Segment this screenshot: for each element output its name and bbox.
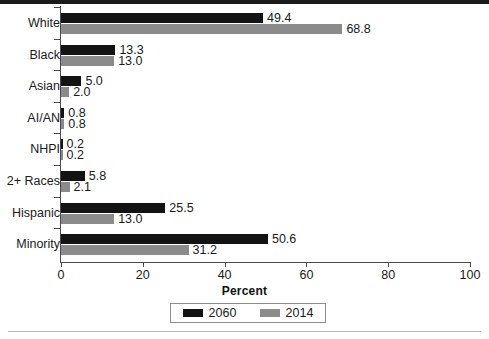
bar-value-label: 13.0 bbox=[118, 214, 142, 224]
bar bbox=[61, 119, 64, 129]
bar-value-label: 25.5 bbox=[169, 203, 193, 213]
x-axis-tick-label: 0 bbox=[41, 268, 81, 282]
chart-legend: 20602014 bbox=[170, 303, 326, 323]
bar-value-label: 5.8 bbox=[89, 171, 106, 181]
x-axis-tick bbox=[143, 262, 144, 267]
legend-label: 2014 bbox=[286, 306, 314, 320]
page-bottom-rule bbox=[8, 331, 481, 332]
x-axis-tick-label: 40 bbox=[205, 268, 245, 282]
bar bbox=[61, 139, 63, 149]
y-axis-tick bbox=[54, 197, 60, 198]
bar-value-label: 2.1 bbox=[74, 182, 91, 192]
x-axis-title: Percent bbox=[0, 284, 489, 298]
bar-value-label: 13.0 bbox=[118, 56, 142, 66]
bar bbox=[61, 245, 189, 255]
x-axis-tick-label: 100 bbox=[450, 268, 489, 282]
x-axis-tick-label: 60 bbox=[286, 268, 326, 282]
bar bbox=[61, 203, 165, 213]
category-label: Hispanic bbox=[6, 207, 60, 220]
category-label: Black bbox=[6, 49, 60, 62]
bar-chart: WhiteBlackAsianAI/ANNHPI2+ RacesHispanic… bbox=[0, 4, 489, 269]
bar-group: 13.313.0 bbox=[61, 45, 470, 66]
x-axis-tick bbox=[470, 262, 471, 267]
legend-item[interactable]: 2014 bbox=[260, 306, 314, 320]
bar-group: 25.513.0 bbox=[61, 203, 470, 224]
category-label: White bbox=[6, 17, 60, 30]
bar-group: 5.02.0 bbox=[61, 76, 470, 97]
bar bbox=[61, 214, 114, 224]
category-label: 2+ Races bbox=[6, 175, 60, 188]
bar-group: 5.82.1 bbox=[61, 171, 470, 192]
bar-value-label: 0.8 bbox=[68, 119, 85, 129]
y-axis-tick bbox=[54, 7, 60, 8]
bar-value-label: 49.4 bbox=[267, 13, 291, 23]
bar-value-label: 68.8 bbox=[346, 24, 370, 34]
bar-value-label: 0.2 bbox=[67, 150, 84, 160]
bar bbox=[61, 24, 342, 34]
y-axis-tick bbox=[54, 228, 60, 229]
y-axis-tick bbox=[54, 102, 60, 103]
y-axis-tick bbox=[54, 70, 60, 71]
y-axis-tick bbox=[54, 133, 60, 134]
legend-swatch bbox=[260, 309, 280, 317]
category-label: Minority bbox=[6, 238, 60, 251]
category-label: NHPI bbox=[6, 143, 60, 156]
bar bbox=[61, 13, 263, 23]
bar bbox=[61, 87, 69, 97]
bar-group: 50.631.2 bbox=[61, 234, 470, 255]
legend-item[interactable]: 2060 bbox=[183, 306, 237, 320]
bar bbox=[61, 45, 115, 55]
x-axis-tick bbox=[388, 262, 389, 267]
y-axis-tick bbox=[54, 165, 60, 166]
x-axis-line bbox=[60, 262, 470, 263]
bar-group: 49.468.8 bbox=[61, 13, 470, 34]
legend-swatch bbox=[183, 309, 203, 317]
bar-value-label: 50.6 bbox=[272, 234, 296, 244]
legend-label: 2060 bbox=[209, 306, 237, 320]
bar-value-label: 31.2 bbox=[193, 245, 217, 255]
bar bbox=[61, 150, 63, 160]
bar-value-label: 2.0 bbox=[73, 87, 90, 97]
category-label: Asian bbox=[6, 80, 60, 93]
bar-group: 0.80.8 bbox=[61, 108, 470, 129]
x-axis-tick bbox=[61, 262, 62, 267]
bar bbox=[61, 234, 268, 244]
category-label: AI/AN bbox=[6, 112, 60, 125]
x-axis-tick bbox=[225, 262, 226, 267]
x-axis-tick-label: 80 bbox=[368, 268, 408, 282]
x-axis-tick-label: 20 bbox=[123, 268, 163, 282]
bar bbox=[61, 182, 70, 192]
bar bbox=[61, 56, 114, 66]
y-axis-tick bbox=[54, 39, 60, 40]
bar bbox=[61, 108, 64, 118]
bar-group: 0.20.2 bbox=[61, 139, 470, 160]
x-axis-tick bbox=[306, 262, 307, 267]
